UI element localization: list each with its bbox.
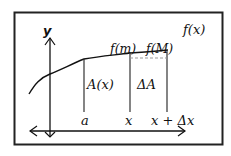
tick-label-x: x — [125, 113, 133, 128]
y-axis — [45, 38, 55, 137]
max-value-label: f(M) — [145, 41, 173, 56]
tick-label-a: a — [81, 113, 89, 128]
area-label: A(x) — [86, 77, 114, 92]
tick-label-x-plus-dx: x + Δx — [151, 113, 195, 128]
min-value-label: f(m) — [109, 41, 136, 56]
function-label: f(x) — [182, 22, 205, 37]
area-function-diagram: y f(x) f(m) f(M) A(x) ΔA a x x + Δx — [0, 0, 231, 156]
y-axis-label: y — [43, 23, 52, 38]
delta-area-label: ΔA — [136, 77, 156, 92]
